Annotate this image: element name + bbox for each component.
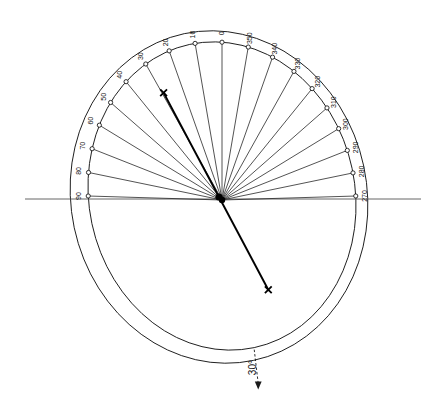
azimuth-tick-label: 280 [358, 165, 365, 177]
radial-ray [222, 173, 353, 200]
azimuth-tick-label: 320 [314, 76, 321, 88]
azimuth-tick-marker [351, 171, 355, 175]
azimuth-tick-marker [167, 49, 171, 53]
diagram-canvas: 0102030405060708090270280290300310320330… [0, 0, 446, 399]
vector-lower-left-end-marker [265, 286, 272, 293]
azimuth-tick-marker [246, 45, 250, 49]
radial-ray [99, 125, 222, 200]
radial-ray [126, 82, 222, 200]
azimuth-tick-label: 300 [342, 118, 349, 130]
azimuth-tick-marker [144, 62, 148, 66]
azimuth-tick-label: 40 [116, 71, 123, 79]
azimuth-tick-label: 290 [352, 141, 359, 153]
azimuth-tick-marker [193, 41, 197, 45]
azimuth-tick-marker [97, 123, 101, 127]
azimuth-tick-label: 350 [246, 32, 253, 44]
center-point-secondary [219, 197, 225, 203]
radial-rays-group [88, 42, 356, 200]
azimuth-tick-labels-group: 0102030405060708090270280290300310320330… [75, 31, 368, 202]
radial-ray [222, 57, 273, 200]
vector-lower-left [219, 197, 268, 290]
azimuth-tick-label: 0 [218, 31, 225, 35]
azimuth-tick-label: 60 [87, 117, 94, 125]
azimuth-tick-label: 310 [330, 96, 337, 108]
azimuth-tick-marker [270, 55, 274, 59]
radial-ray [222, 108, 327, 200]
azimuth-tick-marker [337, 127, 341, 131]
radial-ray [92, 149, 222, 200]
radial-ray [222, 129, 339, 200]
radial-ray [222, 89, 312, 200]
azimuth-tick-marker [108, 100, 112, 104]
radial-ray [89, 172, 222, 200]
azimuth-tick-label: 30 [137, 52, 144, 60]
rotation-annotation-label: 30° [247, 360, 258, 375]
azimuth-tick-label: 20 [162, 38, 169, 46]
polar-azimuth-diagram: 0102030405060708090270280290300310320330… [0, 0, 446, 399]
azimuth-tick-marker [220, 40, 224, 44]
azimuth-tick-marker [86, 194, 90, 198]
rotation-annotation-group: 30° [247, 350, 261, 390]
azimuth-tick-marker [86, 170, 90, 174]
azimuth-tick-label: 90 [75, 192, 82, 200]
azimuth-tick-label: 50 [100, 93, 107, 101]
azimuth-tick-marker [345, 148, 349, 152]
annotation-arrow-head [255, 382, 262, 390]
radial-ray [111, 103, 222, 200]
azimuth-tick-marker [90, 147, 94, 151]
azimuth-tick-label: 270 [361, 190, 368, 202]
azimuth-tick-label: 330 [294, 58, 301, 70]
radial-ray [169, 51, 222, 200]
azimuth-tick-marker [354, 194, 358, 198]
radial-ray [222, 150, 347, 200]
azimuth-tick-marker [124, 80, 128, 84]
azimuth-tick-label: 10 [189, 31, 196, 39]
azimuth-tick-label: 70 [80, 142, 87, 150]
azimuth-tick-label: 80 [76, 167, 83, 175]
azimuth-tick-label: 340 [271, 43, 278, 55]
azimuth-tick-marker [325, 106, 329, 110]
